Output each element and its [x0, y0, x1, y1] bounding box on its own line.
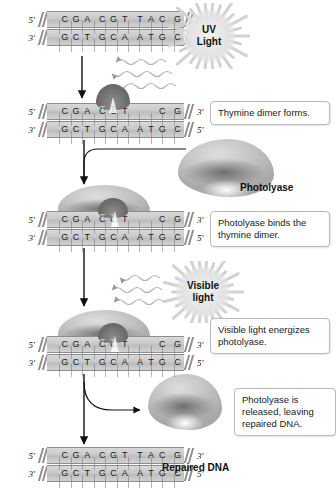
base-letter: G [157, 230, 168, 245]
base-letter: T [134, 12, 145, 27]
backbone-cap-left [38, 212, 47, 227]
dna-bottom-bases: GCT GCA ATG C [47, 354, 184, 371]
base-letter: A [134, 30, 145, 45]
prime-label-5-top: 5' [22, 451, 35, 461]
dna-bottom-strand: 3' GCT GCA ATG C 5' [22, 30, 204, 45]
base-letter: C [59, 337, 70, 352]
base-letter: C [59, 104, 70, 119]
base-letter: A [146, 12, 157, 27]
base-letter: C [157, 448, 168, 463]
dna-bottom-strand: 3' GCT GCA ATG C 5' [22, 122, 204, 137]
arrow-photolyase-release [84, 382, 140, 410]
base-letter: A [119, 122, 130, 137]
callout-energizes: Visible light energizes photolyase. [210, 318, 330, 354]
base-gap [130, 104, 134, 119]
backbone-cap-right [184, 212, 193, 227]
dna-top-bases: CGA CGT TAC G [47, 11, 184, 28]
base-letter: T [82, 466, 93, 481]
base-letter: C [108, 30, 119, 45]
base-letter: C [70, 355, 81, 370]
backbone-cap-left [38, 30, 47, 45]
base-letter: C [172, 466, 183, 481]
base-letter: G [172, 104, 183, 119]
base-letter: G [59, 466, 70, 481]
uv-ray-2 [112, 72, 172, 77]
backbone-cap-right [184, 448, 193, 463]
visible-ray-3 [114, 300, 164, 305]
backbone-cap-right [184, 337, 193, 352]
base-letter: A [82, 104, 93, 119]
base-letter: C [70, 466, 81, 481]
base-letter: G [70, 337, 81, 352]
base-letter: G [108, 448, 119, 463]
base-gap [130, 212, 134, 227]
base-letter: G [157, 466, 168, 481]
base-letter: C [172, 355, 183, 370]
base-letter: T [119, 12, 130, 27]
callout-binds-text: Photolyase binds the thymine dimer. [218, 217, 306, 240]
dna-bottom-bases: GCT GCA ATG C [47, 465, 184, 482]
prime-label-5-top: 5' [22, 107, 35, 117]
base-letter: C [59, 212, 70, 227]
base-letter: C [70, 230, 81, 245]
base-letter: T [82, 230, 93, 245]
callout-energizes-text: Visible light energizes photolyase. [218, 324, 310, 347]
dna-with-dimer: 5' CGA CGT TAC G 3' 3' GCT GCA ATG C 5' … [22, 104, 204, 137]
base-letter: C [172, 230, 183, 245]
uv-light-label: UV Light [197, 24, 221, 48]
base-letter: G [108, 12, 119, 27]
backbone-cap-right [184, 122, 193, 137]
prime-label-5-top: 5' [22, 340, 35, 350]
base-letter: G [59, 355, 70, 370]
base-letter: G [59, 230, 70, 245]
callout-binds: Photolyase binds the thymine dimer. [210, 211, 330, 247]
base-letter: T [146, 30, 157, 45]
dna-photolyase-bound: 5' CGA CGT TAC G 3' 3' GCT GCA ATG C 5' … [22, 212, 204, 245]
backbone-cap-right [184, 355, 193, 370]
uv-ray-3 [116, 84, 176, 89]
base-letter: C [70, 30, 81, 45]
prime-label-3-bottom: 3' [22, 125, 35, 135]
base-letter: A [119, 230, 130, 245]
base-letter: C [157, 337, 168, 352]
base-letter: G [97, 466, 108, 481]
uv-light-line2: Light [197, 36, 221, 48]
prime-label-5-top: 5' [22, 15, 35, 25]
base-letter: T [146, 122, 157, 137]
backbone-cap-left [38, 122, 47, 137]
visible-light-label: Visible light [187, 280, 219, 304]
base-letter: C [59, 12, 70, 27]
base-letter: T [134, 448, 145, 463]
base-letter: G [59, 122, 70, 137]
dna-bottom-strand: 3' GCT GCA ATG C 5' [22, 466, 204, 481]
prime-label-3-bottom: 3' [22, 358, 35, 368]
dna-bottom-strand: 3' GCT GCA ATG C 5' [22, 355, 204, 370]
base-letter: A [119, 30, 130, 45]
backbone-cap-left [38, 337, 47, 352]
prime-label-3-top: 3' [193, 215, 203, 225]
prime-label-3-bottom: 3' [22, 233, 35, 243]
base-letter: A [119, 355, 130, 370]
base-letter: G [172, 448, 183, 463]
base-letter: G [157, 122, 168, 137]
base-letter: G [172, 12, 183, 27]
callout-dimer: Thymine dimer forms. [210, 101, 330, 125]
base-letter: C [70, 122, 81, 137]
prime-label-3-top: 3' [193, 451, 203, 461]
backbone-cap-left [38, 12, 47, 27]
base-letter: C [157, 104, 168, 119]
base-letter: A [82, 337, 93, 352]
callout-dimer-text: Thymine dimer forms. [218, 107, 310, 118]
base-gap [130, 337, 134, 352]
uv-light-line1: UV [197, 24, 221, 36]
base-letter: G [97, 230, 108, 245]
prime-label-3-bottom: 3' [22, 33, 35, 43]
base-letter: G [97, 122, 108, 137]
dna-bottom-bases: GCT GCA ATG C [47, 121, 184, 138]
base-letter: T [82, 355, 93, 370]
prime-label-5-bottom: 5' [193, 233, 203, 243]
dimer-base-letters: TT [100, 337, 120, 347]
prime-label-5-bottom: 5' [193, 358, 203, 368]
base-letter: C [172, 122, 183, 137]
base-letter: A [82, 12, 93, 27]
